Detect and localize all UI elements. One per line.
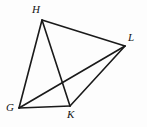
segments-group <box>19 20 125 108</box>
segment-LK <box>70 46 125 106</box>
vertex-label-L: L <box>128 32 134 43</box>
segment-GL <box>19 46 125 108</box>
vertex-label-G: G <box>6 102 14 113</box>
segment-GH <box>19 20 42 108</box>
geometry-figure: HLGK <box>0 0 147 127</box>
segment-KG <box>19 106 70 108</box>
segment-HL <box>42 20 125 46</box>
vertex-label-H: H <box>32 4 40 15</box>
segment-HK <box>42 20 70 106</box>
vertex-label-K: K <box>67 109 74 120</box>
